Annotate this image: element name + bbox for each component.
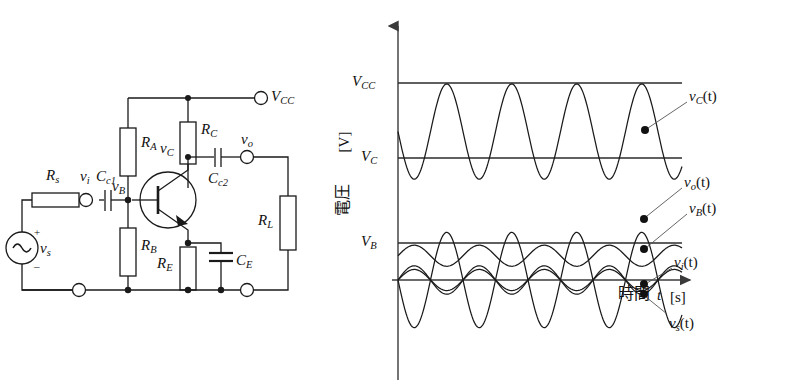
- resistor-rs: [32, 193, 79, 207]
- circuit-diagram-panel: VCC RA RC Cc2 vC: [0, 0, 340, 387]
- source-minus-sign: _: [33, 256, 40, 268]
- annotation-dot-vc: [641, 126, 649, 134]
- waveform-svg: 電圧 [V] 時間 t [s] VCC VC VB: [330, 0, 800, 387]
- figure-root: VCC RA RC Cc2 vC: [0, 0, 800, 387]
- x-axis-unit: [s]: [670, 289, 686, 305]
- label-ce: CE: [236, 252, 253, 270]
- label-curve-vi: vi(t): [674, 254, 698, 272]
- label-curve-vs: vs(t): [669, 315, 694, 333]
- node-supply: [185, 95, 191, 101]
- label-cc1: Cc1: [96, 168, 116, 186]
- label-vo: vo: [241, 131, 253, 149]
- y-axis-label: 電圧 [V]: [333, 132, 352, 216]
- label-curve-vb: vB(t): [689, 200, 716, 218]
- node-ground-rb: [125, 287, 131, 293]
- source-to-ground-wire: [22, 264, 72, 290]
- curve-vc: [398, 84, 682, 179]
- terminal-ground-left[interactable]: [73, 284, 86, 297]
- label-curve-vc: vC(t): [689, 88, 717, 106]
- terminal-vcc[interactable]: [255, 92, 268, 105]
- label-level-vb: VB: [361, 233, 377, 251]
- rs-to-source-wire: [22, 200, 32, 232]
- annotation-dot-vb: [640, 245, 648, 253]
- terminal-vo[interactable]: [241, 151, 254, 164]
- label-rb: RB: [140, 237, 157, 255]
- label-rl: RL: [257, 212, 273, 230]
- resistor-rb: [120, 228, 136, 276]
- label-vcc: VCC: [271, 88, 295, 106]
- leader-vi: [647, 268, 672, 283]
- resistor-rl: [280, 196, 296, 250]
- terminal-ground-right[interactable]: [241, 284, 254, 297]
- label-rc: RC: [200, 121, 218, 139]
- annotation-dot-vi: [640, 280, 648, 288]
- label-vc-node: vC: [160, 140, 175, 158]
- resistor-re: [180, 247, 196, 290]
- label-curve-vo: vo(t): [684, 174, 710, 192]
- circuit-svg: VCC RA RC Cc2 vC: [0, 0, 340, 387]
- node-ground-ce: [218, 287, 224, 293]
- curve-vb: [398, 245, 682, 266]
- leader-vo: [647, 188, 682, 216]
- label-rs: Rs: [45, 167, 59, 185]
- waveform-graph-panel: 電圧 [V] 時間 t [s] VCC VC VB: [330, 0, 800, 387]
- label-vi: vi: [80, 168, 90, 186]
- resistor-ra: [120, 128, 136, 176]
- label-level-vcc: VCC: [352, 73, 376, 91]
- label-level-vc: VC: [361, 148, 378, 166]
- terminal-vi[interactable]: [80, 194, 93, 207]
- transistor-emitter-lead: [158, 209, 188, 243]
- label-vs: vs: [40, 240, 51, 258]
- leader-vb: [647, 214, 687, 247]
- source-plus-sign: +: [34, 226, 40, 238]
- label-ra: RA: [140, 134, 157, 152]
- y-axis-label-cjk: 電圧: [333, 184, 352, 216]
- rl-to-ground-wire: [254, 250, 288, 290]
- node-ground-re: [185, 287, 191, 293]
- y-axis-unit: [V]: [336, 132, 352, 153]
- label-cc2: Cc2: [208, 170, 229, 188]
- label-re: RE: [156, 255, 173, 273]
- annotation-dot-vs: [640, 290, 648, 298]
- annotation-dot-vo: [640, 215, 648, 223]
- output-to-rl-wire: [254, 157, 288, 196]
